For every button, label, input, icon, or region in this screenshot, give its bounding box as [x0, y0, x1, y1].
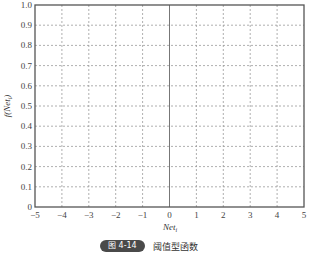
figure-number-badge: 图 4-14	[100, 240, 145, 252]
y-tick-label: 0.8	[21, 40, 33, 50]
y-axis-ticks: 00.10.20.30.40.50.60.70.80.91.0	[21, 0, 33, 212]
x-tick-label: −1	[138, 210, 148, 220]
y-tick-label: 0.9	[21, 20, 33, 30]
y-tick-label: 0	[28, 202, 33, 212]
y-tick-label: 0.3	[21, 141, 33, 151]
y-tick-label: 0.5	[21, 101, 33, 111]
x-axis-label: Neti	[162, 222, 178, 233]
figure-caption-text: 阈值型函数	[153, 240, 198, 253]
y-tick-label: 0.4	[21, 121, 33, 131]
x-tick-label: 5	[302, 210, 307, 220]
x-tick-label: −2	[111, 210, 121, 220]
y-tick-label: 0.6	[21, 81, 33, 91]
x-tick-label: −4	[57, 210, 67, 220]
y-tick-label: 0.2	[21, 162, 32, 172]
y-axis-label: f(Neti)	[2, 95, 13, 118]
x-tick-label: 3	[248, 210, 253, 220]
x-tick-label: 1	[194, 210, 199, 220]
y-tick-label: 1.0	[21, 0, 33, 10]
x-tick-label: 4	[275, 210, 280, 220]
x-axis-ticks: −5−4−3−2−1012345	[30, 210, 307, 220]
figure-caption: 图 4-14 阈值型函数	[100, 239, 198, 253]
x-tick-label: −3	[84, 210, 94, 220]
y-tick-label: 0.7	[21, 61, 33, 71]
y-tick-label: 0.1	[21, 182, 32, 192]
x-tick-label: 2	[221, 210, 226, 220]
x-tick-label: 0	[167, 210, 172, 220]
